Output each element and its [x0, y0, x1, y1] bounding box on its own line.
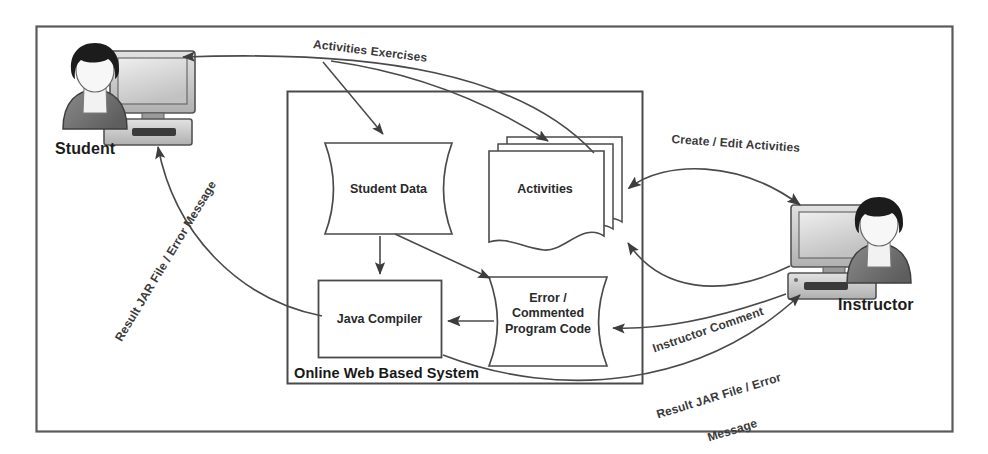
system-boundary-label: Online Web Based System [294, 365, 479, 381]
node-label-student-data: Student Data [331, 182, 446, 197]
node-label-java-compiler: Java Compiler [322, 312, 437, 327]
instructor-actor-icon [788, 197, 911, 299]
diagram-canvas [0, 0, 988, 454]
student-actor-icon [63, 43, 195, 145]
instructor-label: Instructor [838, 296, 914, 314]
edge-create-edit-activities [629, 169, 800, 205]
student-label: Student [55, 140, 115, 158]
edge-student-data-to-error-code [395, 234, 490, 278]
edge-error-code-to-activities [628, 243, 790, 286]
edge-activities-exercises-tail [331, 61, 548, 141]
node-label-activities: Activities [490, 182, 600, 197]
node-label-error-code: Error / Commented Program Code [496, 291, 600, 337]
diagram-root: Student Instructor Student Data Activiti… [0, 0, 988, 454]
edge-activities-to-student-data [323, 62, 383, 134]
